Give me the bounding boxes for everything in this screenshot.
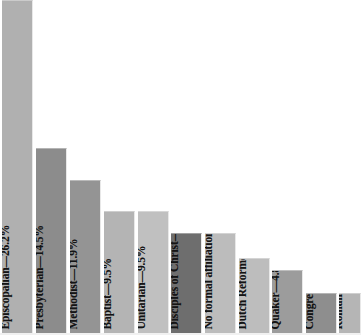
bar-label: Disciples of Christ—7.1%	[171, 233, 180, 329]
bar-label: Baptist—9.5%	[104, 258, 113, 329]
bar-label: Dutch Reformed—4.8%	[239, 258, 248, 329]
bar: Presbyterian—14.5%	[36, 148, 67, 333]
bar: Episcopalian—26.2%	[2, 0, 33, 333]
bar-label: Congregationalist—2.4%	[306, 293, 315, 329]
bar: Unitarian—9.5%	[138, 211, 169, 333]
bar-label: Presbyterian—14.5%	[36, 225, 45, 329]
bar-label: Unitarian—9.5%	[138, 245, 147, 329]
bar: Quaker—4.8%	[272, 270, 303, 333]
bar: Roman Catholic—2.4%	[339, 293, 361, 333]
bar: Dutch Reformed—4.8%	[239, 258, 270, 333]
bar: Congregationalist—2.4%	[306, 293, 337, 333]
bar-label: No formal affiliation—7.1%	[205, 233, 214, 329]
bar: Methodist—11.9%	[70, 180, 101, 333]
bar: Disciples of Christ—7.1%	[171, 233, 202, 333]
plot-area: Episcopalian—26.2%Presbyterian—14.5%Meth…	[0, 0, 361, 335]
bar-label: Methodist—11.9%	[70, 238, 79, 329]
bar-chart: Episcopalian—26.2%Presbyterian—14.5%Meth…	[0, 0, 361, 335]
bar-label: Roman Catholic—2.4%	[339, 293, 344, 329]
bar-label: Quaker—4.8%	[272, 270, 281, 329]
bar: Baptist—9.5%	[104, 211, 135, 333]
bar-label: Episcopalian—26.2%	[2, 224, 11, 329]
bar: No formal affiliation—7.1%	[205, 233, 236, 333]
